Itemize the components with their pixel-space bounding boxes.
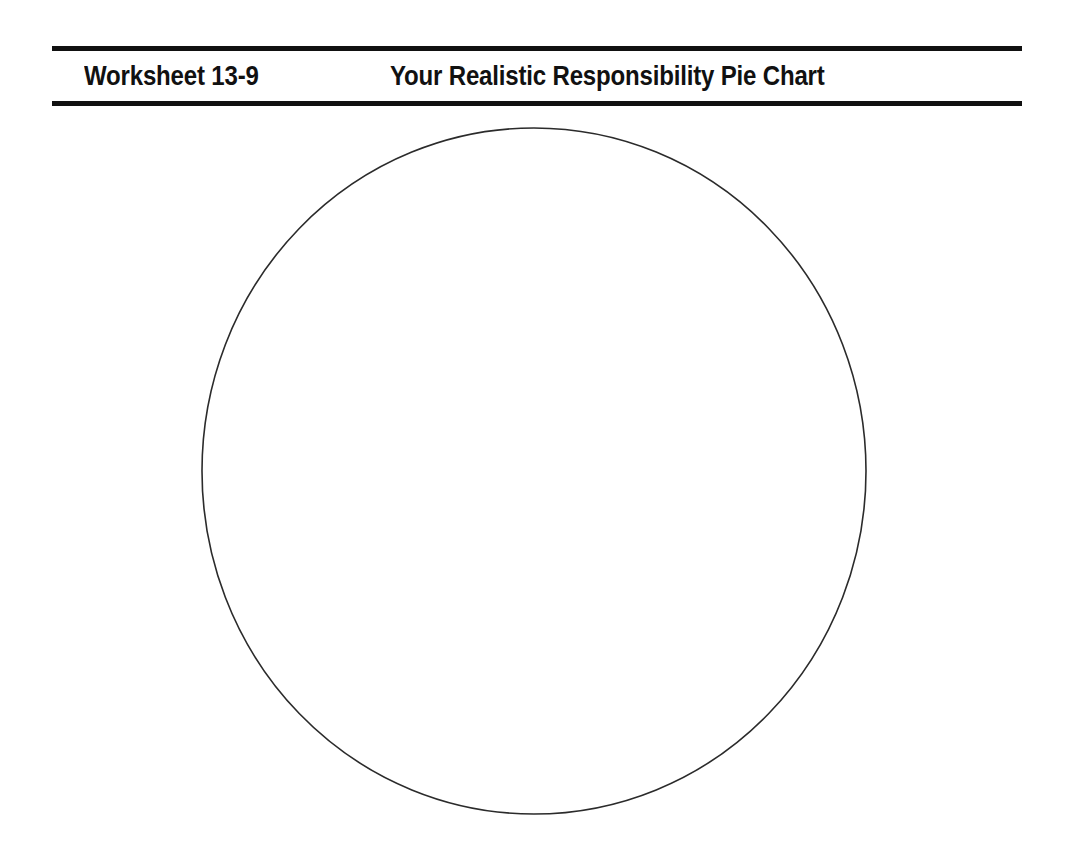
worksheet-header: Worksheet 13-9 Your Realistic Responsibi…	[52, 46, 1022, 108]
header-text-row: Worksheet 13-9 Your Realistic Responsibi…	[52, 51, 1022, 101]
pie-chart-outline	[201, 127, 867, 815]
worksheet-number-label: Worksheet 13-9	[84, 60, 259, 92]
worksheet-page: Worksheet 13-9 Your Realistic Responsibi…	[0, 0, 1077, 848]
pie-chart-area	[0, 0, 1077, 848]
header-rule-bottom	[52, 101, 1022, 106]
pie-circle-shape	[202, 128, 866, 814]
page-title: Your Realistic Responsibility Pie Chart	[390, 60, 825, 92]
